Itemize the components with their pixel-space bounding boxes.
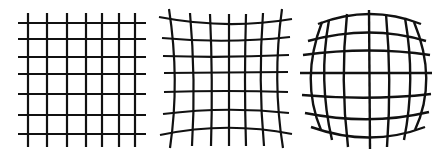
grid-pincushion [159, 9, 292, 148]
grid-normal [18, 13, 146, 147]
distortion-diagram [0, 0, 447, 158]
grid-barrel [300, 10, 432, 149]
